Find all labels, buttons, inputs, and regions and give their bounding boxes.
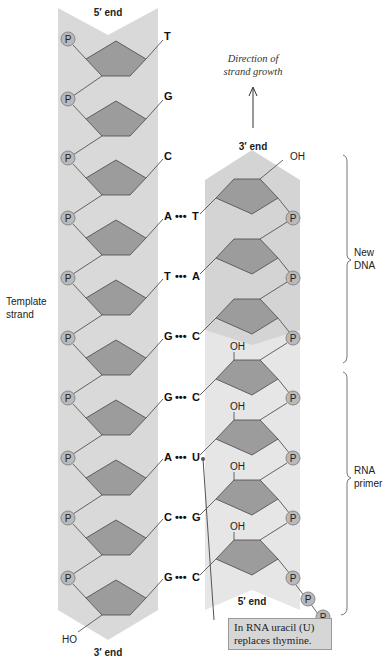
svg-text:P: P — [290, 513, 297, 524]
svg-text:P: P — [65, 213, 72, 224]
svg-text:P: P — [65, 153, 72, 164]
svg-text:P: P — [290, 213, 297, 224]
svg-text:•••: ••• — [175, 391, 187, 403]
svg-text:•••: ••• — [175, 270, 187, 282]
new-strand-3prime-end-label: 3′ end — [239, 141, 268, 152]
growth-arrow-icon — [249, 87, 257, 128]
rna-oh-label-3: OH — [230, 461, 245, 472]
paired-base-1: T — [192, 210, 199, 222]
svg-text:P: P — [65, 273, 72, 284]
paired-base-3: C — [192, 330, 200, 342]
template-base-4: A — [164, 210, 172, 222]
replication-diagram: P P P P P P P P P P T G C A T G G A C G … — [0, 0, 389, 667]
template-base-7: G — [164, 391, 173, 403]
svg-text:P: P — [290, 333, 297, 344]
new-strand-5prime-end-label: 5′ end — [238, 596, 267, 607]
new-dna-label-line1: New — [354, 247, 375, 258]
svg-text:P: P — [290, 273, 297, 284]
uracil-note-box: In RNA uracil (U) replaces thymine. — [228, 618, 332, 650]
svg-text:P: P — [65, 393, 72, 404]
rna-oh-label-1: OH — [230, 341, 245, 352]
template-base-1: T — [164, 30, 171, 42]
new-strand-oh-label: OH — [290, 151, 305, 162]
svg-text:P: P — [65, 333, 72, 344]
paired-base-4: C — [192, 391, 200, 403]
rna-primer-label-line2: primer — [354, 478, 383, 489]
rna-primer-bracket — [341, 372, 351, 615]
svg-text:•••: ••• — [175, 210, 187, 222]
template-base-9: C — [164, 511, 172, 523]
svg-text:P: P — [290, 453, 297, 464]
paired-base-2: A — [192, 270, 200, 282]
rna-oh-label-2: OH — [230, 401, 245, 412]
svg-text:P: P — [290, 573, 297, 584]
rna-oh-label-4: OH — [230, 521, 245, 532]
svg-text:•••: ••• — [175, 451, 187, 463]
paired-base-7: C — [192, 571, 200, 583]
paired-base-6: G — [192, 511, 201, 523]
template-base-8: A — [164, 451, 172, 463]
note-line1: In RNA uracil (U) — [234, 621, 326, 634]
template-base-10: G — [164, 571, 173, 583]
template-3prime-end-label: 3′ end — [94, 647, 123, 658]
direction-label-line1: Direction of — [227, 53, 281, 64]
paired-base-5-uracil: U — [192, 451, 200, 463]
note-line2: replaces thymine. — [234, 634, 326, 647]
svg-text:•••: ••• — [175, 571, 187, 583]
template-base-2: G — [164, 90, 173, 102]
svg-text:P: P — [65, 94, 72, 105]
svg-text:•••: ••• — [175, 330, 187, 342]
svg-text:P: P — [65, 513, 72, 524]
template-bases: T G C A T G G A C G — [164, 30, 173, 583]
svg-text:P: P — [65, 453, 72, 464]
svg-text:P: P — [305, 594, 312, 605]
svg-text:•••: ••• — [175, 511, 187, 523]
template-5prime-end-label: 5′ end — [94, 7, 123, 18]
svg-text:P: P — [290, 393, 297, 404]
template-base-3: C — [164, 150, 172, 162]
template-ho-label: HO — [62, 634, 77, 645]
svg-text:P: P — [65, 34, 72, 45]
new-dna-bracket — [343, 155, 351, 363]
base-pairs: ••• T ••• A ••• C ••• C ••• U ••• G ••• … — [175, 210, 201, 583]
new-dna-label-line2: DNA — [354, 260, 375, 271]
template-base-6: G — [164, 330, 173, 342]
template-strand-label-line1: Template — [6, 296, 47, 307]
svg-text:P: P — [65, 573, 72, 584]
direction-label-line2: strand growth — [224, 66, 283, 77]
rna-primer-label-line1: RNA — [354, 465, 375, 476]
template-strand-label-line2: strand — [6, 309, 34, 320]
template-base-5: T — [164, 270, 171, 282]
